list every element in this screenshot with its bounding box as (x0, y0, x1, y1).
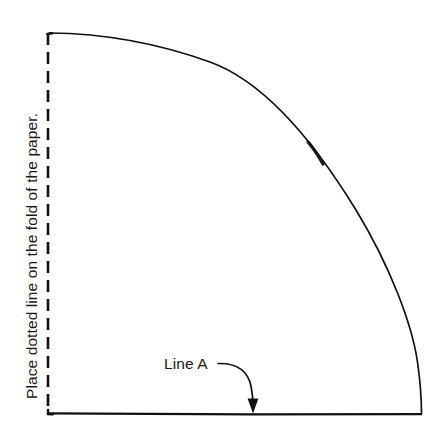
diagram-canvas: Place dotted line on the fold of the pap… (0, 0, 444, 443)
leader-arrowhead-icon (248, 399, 259, 414)
line-a-label: Line A (164, 354, 208, 374)
fold-instruction-label: Place dotted line on the fold of the pap… (21, 79, 43, 399)
arc-ink-accent (308, 142, 323, 164)
top-left-corner-join (48, 33, 53, 34)
pattern-arc (50, 33, 422, 414)
pattern-diagram (0, 0, 444, 443)
bottom-left-corner-join (48, 410, 53, 414)
baseline-line-a (48, 413, 422, 414)
